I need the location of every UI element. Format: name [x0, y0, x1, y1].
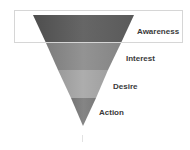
- funnel-diagram: Awareness Interest Desire Action: [0, 0, 190, 150]
- stage-label-interest: Interest: [126, 55, 155, 63]
- stage-label-action: Action: [99, 109, 124, 117]
- funnel-segment-action: [71, 98, 96, 126]
- funnel-segment-desire: [58, 70, 108, 98]
- funnel-segment-interest: [46, 43, 121, 70]
- stage-label-desire: Desire: [113, 83, 137, 91]
- stage-label-awareness: Awareness: [137, 28, 179, 36]
- faint-mark: [82, 135, 83, 142]
